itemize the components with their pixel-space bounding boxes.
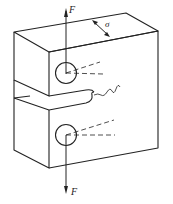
pin-holes [56,63,77,146]
ct-specimen-diagram: F F σ [0,0,173,204]
crack-line [94,85,120,95]
stress-label: σ [105,19,110,29]
upper-block [14,13,158,96]
arrow-down-icon [64,186,68,194]
upper-block-top-face [14,13,158,52]
lower-block [14,83,158,168]
crack-notch [14,80,120,110]
arrow-up-icon [64,8,68,17]
force-label-top: F [68,4,76,15]
force-label-bottom: F [70,186,78,197]
